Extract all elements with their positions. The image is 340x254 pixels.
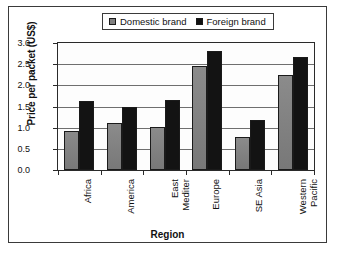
x-category-label-line: Europe: [210, 179, 221, 210]
plot-area: [57, 42, 315, 171]
bar-foreign-africa: [79, 101, 94, 170]
bar-foreign-se-asia: [250, 120, 265, 170]
x-tick-mark: [186, 171, 187, 175]
legend-label-foreign: Foreign brand: [207, 17, 266, 27]
legend-entry-domestic: Domestic brand: [109, 17, 187, 27]
bar-domestic-africa: [64, 131, 79, 170]
bar-foreign-america: [122, 107, 137, 170]
chart-legend: Domestic brand Foreign brand: [102, 13, 274, 30]
x-axis-title: Region: [9, 229, 326, 240]
x-tick-mark: [314, 171, 315, 175]
x-tick-mark: [271, 171, 272, 175]
bar-domestic-america: [107, 123, 122, 170]
bar-domestic-east-mediter: [150, 127, 165, 170]
x-tick-mark: [101, 171, 102, 175]
y-tick-label: 3.0: [0, 39, 30, 48]
foreign-swatch-icon: [196, 18, 203, 25]
bar-series-container: [58, 43, 314, 170]
x-category-label-line: America: [125, 179, 136, 214]
bar-domestic-europe: [192, 66, 207, 170]
x-category-label-line: SE Asia: [253, 179, 264, 212]
x-tick-mark: [143, 171, 144, 175]
y-tick-label: 0.5: [0, 144, 30, 153]
y-axis-title: Price per packet (US$): [26, 8, 37, 140]
y-tick-label: 1.5: [0, 102, 30, 111]
bar-domestic-western-pacific: [278, 75, 293, 170]
bar-domestic-se-asia: [235, 137, 250, 170]
x-category-label-line: Africa: [82, 179, 93, 203]
x-category-label-line: Western: [297, 179, 308, 214]
bar-foreign-europe: [207, 51, 222, 170]
x-tick-mark: [58, 171, 59, 175]
x-category-label-line: East: [169, 179, 180, 198]
legend-label-domestic: Domestic brand: [120, 17, 187, 27]
domestic-swatch-icon: [109, 18, 116, 25]
x-tick-mark: [229, 171, 230, 175]
chart-figure: Domestic brand Foreign brand Price per p…: [8, 6, 327, 243]
bar-foreign-western-pacific: [293, 57, 308, 170]
y-tick-label: 0.0: [0, 166, 30, 175]
legend-entry-foreign: Foreign brand: [196, 17, 266, 27]
bar-foreign-east-mediter: [165, 100, 180, 170]
y-tick-label: 1.0: [0, 123, 30, 132]
y-tick-label: 2.5: [0, 60, 30, 69]
y-tick-label: 2.0: [0, 81, 30, 90]
